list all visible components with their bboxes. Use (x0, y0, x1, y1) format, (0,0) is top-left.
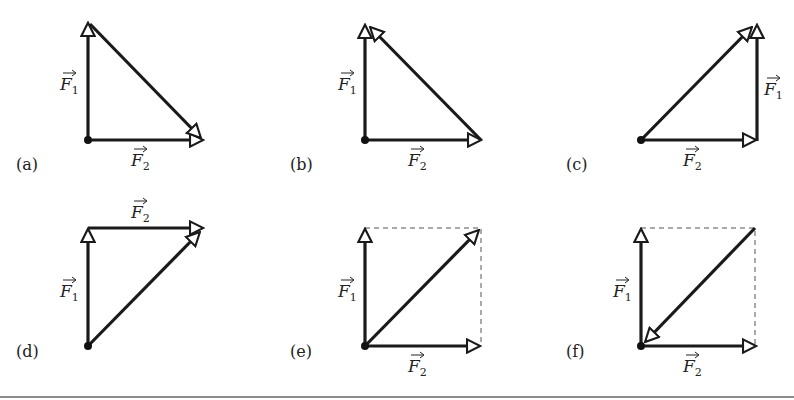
resultant-vector (365, 231, 478, 346)
f1-label: F1 (59, 277, 79, 304)
f2-label: F2 (130, 146, 150, 173)
resultant-vector (646, 228, 755, 341)
resultant-vector (641, 28, 751, 140)
svg-text:F1: F1 (59, 74, 79, 97)
svg-text:F2: F2 (682, 150, 702, 173)
origin-point (361, 342, 369, 350)
f2-label: F2 (407, 352, 427, 379)
resultant-vector (371, 28, 481, 140)
f1-label: F1 (337, 277, 357, 304)
svg-text:F2: F2 (682, 356, 702, 379)
svg-text:F2: F2 (130, 150, 150, 173)
origin-point (84, 136, 92, 144)
f2-label: F2 (130, 198, 150, 225)
panel-a: F1 F2 (a) (16, 24, 202, 174)
panel-caption: (b) (290, 155, 313, 174)
svg-text:F1: F1 (59, 281, 79, 304)
panel-e: F1 F2 (e) (290, 228, 481, 379)
panel-d: F1 F2 (d) (16, 198, 202, 361)
panel-c: F1 F2 (c) (566, 26, 783, 174)
svg-text:F2: F2 (130, 202, 150, 225)
f2-label: F2 (407, 146, 427, 173)
panel-b: F1 F2 (b) (290, 26, 481, 174)
svg-text:F1: F1 (612, 281, 632, 304)
panel-caption: (f) (566, 342, 584, 361)
origin-point (84, 342, 92, 350)
svg-text:F2: F2 (407, 150, 427, 173)
panel-caption: (a) (16, 155, 38, 174)
f1-label: F1 (59, 70, 79, 97)
svg-text:F1: F1 (763, 79, 783, 102)
svg-text:F2: F2 (407, 356, 427, 379)
f2-label: F2 (682, 352, 702, 379)
svg-text:F1: F1 (337, 74, 357, 97)
origin-point (637, 342, 645, 350)
panel-caption: (d) (16, 342, 39, 361)
vector-addition-figure: F1 F2 (a) F1 F2 (b) F1 (0, 0, 794, 400)
f1-label: F1 (763, 75, 783, 102)
panel-caption: (e) (290, 342, 312, 361)
panel-f: F1 F2 (f) (566, 228, 755, 379)
svg-text:F1: F1 (337, 281, 357, 304)
f1-label: F1 (337, 70, 357, 97)
panel-caption: (c) (566, 155, 587, 174)
origin-point (637, 136, 645, 144)
f2-label: F2 (682, 146, 702, 173)
resultant-vector (88, 233, 199, 346)
origin-point (361, 136, 369, 144)
resultant-vector (90, 24, 200, 137)
f1-label: F1 (612, 277, 632, 304)
